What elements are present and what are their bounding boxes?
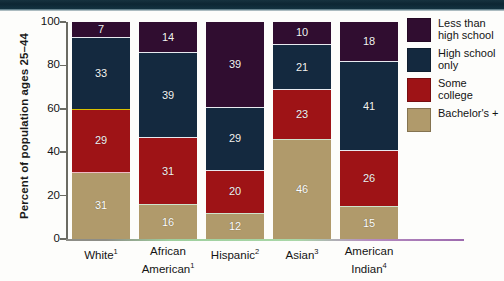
y-tick-label: 0	[30, 232, 60, 244]
legend-label: High schoolonly	[438, 48, 495, 71]
bar-segment: 7	[72, 22, 130, 37]
bar-segment: 39	[206, 22, 264, 107]
x-axis-label-5: AmericanIndian4	[321, 245, 417, 276]
bar-segment: 29	[206, 107, 264, 170]
bar-segment-value: 23	[296, 108, 308, 120]
bar-segment: 16	[139, 204, 197, 239]
bar-segment-value: 15	[363, 217, 375, 229]
bar-segment: 20	[206, 170, 264, 213]
bar-segment-value: 18	[363, 35, 375, 47]
legend-label-line1: Some college	[438, 78, 503, 101]
legend-label-line2: high school	[438, 30, 494, 42]
bar-segment-value: 20	[229, 185, 241, 197]
bar-segment-value: 39	[162, 89, 174, 101]
y-tick-label: 80	[30, 58, 60, 70]
legend-item-4[interactable]: Bachelor's +	[407, 108, 503, 132]
bar-segment: 31	[72, 172, 130, 239]
bar-segment: 10	[273, 22, 331, 44]
bar-segment-value: 7	[98, 23, 104, 35]
bar-segment: 21	[273, 44, 331, 90]
bar-segment: 39	[139, 52, 197, 137]
y-tick-label: 40	[30, 145, 60, 157]
bar-segment: 18	[340, 22, 398, 61]
bar-segment: 23	[273, 89, 331, 139]
footnote-marker: 1	[114, 247, 118, 256]
legend-item-2[interactable]: High schoolonly	[407, 48, 503, 72]
bar-2[interactable]: 14393116	[139, 22, 197, 239]
legend-swatch	[407, 108, 431, 132]
x-axis-baseline	[66, 239, 464, 241]
x-axis-label-line: American	[321, 245, 417, 259]
bar-segment-value: 39	[229, 58, 241, 70]
bar-segment-value: 33	[95, 67, 107, 79]
y-tick-label: 60	[30, 102, 60, 114]
legend-label-line1: Bachelor's +	[438, 108, 499, 120]
bar-segment-value: 26	[363, 172, 375, 184]
bar-segment: 29	[72, 109, 130, 172]
bar-segment-value: 46	[296, 183, 308, 195]
bar-3[interactable]: 39292012	[206, 22, 264, 239]
plot-area: 733293114393116392920121021234618412615	[66, 22, 464, 239]
footnote-marker: 3	[314, 247, 318, 256]
chart-page: Percent of population ages 25–44 1008060…	[0, 0, 504, 281]
bar-segment-value: 41	[363, 100, 375, 112]
bar-1[interactable]: 7332931	[72, 22, 130, 239]
bar-segment: 15	[340, 206, 398, 239]
bar-segment-value: 21	[296, 61, 308, 73]
bar-segment-value: 16	[162, 216, 174, 228]
scan-top-band-edge	[0, 9, 504, 11]
bar-segment-value: 12	[229, 220, 241, 232]
y-tick-label: 100	[30, 15, 60, 27]
bar-segment: 14	[139, 22, 197, 52]
y-axis-ticks: 100806040200	[0, 0, 60, 281]
bar-segment: 31	[139, 137, 197, 204]
bar-segment-value: 14	[162, 31, 174, 43]
bar-segment-value: 10	[296, 26, 308, 38]
bar-segment: 12	[206, 213, 264, 239]
chart-legend: Less thanhigh schoolHigh schoolonlySome …	[407, 18, 503, 138]
bar-4[interactable]: 10212346	[273, 22, 331, 239]
bar-segment-value: 31	[95, 199, 107, 211]
bar-segment-value: 29	[95, 134, 107, 146]
bar-5[interactable]: 18412615	[340, 22, 398, 239]
legend-item-1[interactable]: Less thanhigh school	[407, 18, 503, 42]
legend-label-line2: only	[438, 60, 495, 72]
bar-segment-value: 31	[162, 165, 174, 177]
bar-segment: 26	[340, 150, 398, 206]
legend-label: Some college	[438, 78, 503, 101]
footnote-marker: 4	[383, 261, 387, 270]
y-tick-label: 20	[30, 189, 60, 201]
legend-label: Bachelor's +	[438, 108, 499, 120]
legend-item-3[interactable]: Some college	[407, 78, 503, 102]
legend-swatch	[407, 18, 431, 42]
legend-label-line1: High school	[438, 48, 495, 60]
scan-top-band	[0, 0, 504, 9]
bar-segment: 46	[273, 139, 331, 239]
legend-label-line1: Less than	[438, 18, 494, 30]
bar-segment-value: 29	[229, 132, 241, 144]
legend-swatch	[407, 48, 431, 72]
bar-segment: 41	[340, 61, 398, 150]
bar-segment: 33	[72, 37, 130, 109]
legend-label: Less thanhigh school	[438, 18, 494, 41]
x-axis-label-line: Indian4	[321, 259, 417, 276]
legend-swatch	[407, 78, 431, 102]
